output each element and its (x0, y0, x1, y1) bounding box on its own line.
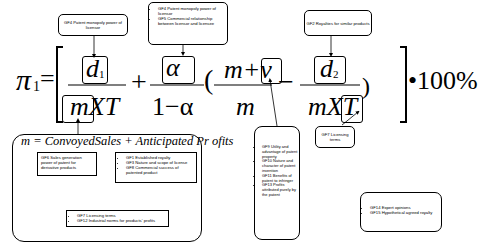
equals-sign: = (40, 64, 55, 94)
callout-gf1-gf3-gf8: GF1 Established royalty GF3 Nature and s… (115, 152, 197, 183)
callout-gf7-right-text: GF7 Licensing terms (316, 132, 354, 142)
one-minus-alpha-denominator: 1−α (152, 92, 193, 122)
pi-symbol: π (16, 63, 31, 97)
times-100-percent: •100% (408, 66, 478, 96)
callout-gf14-gf15: GF14 Expert opinions GF15 Hypothetical a… (360, 192, 442, 232)
callout-gf2-text: GF2 Royalties for similar products (306, 21, 369, 26)
m-plus-v-numerator: m+v (224, 55, 272, 85)
callout-item: GF10 Nature and character of patent inve… (262, 159, 298, 173)
callout-item: GF12 Industrial norms for products' prof… (77, 218, 166, 223)
callout-gf4-text: GF4 Patent monopoly power of licensor (59, 20, 127, 30)
minus-sign: − (278, 66, 294, 98)
callout-item: GF9 Utility and advantage of patent prop… (262, 145, 298, 159)
m-denominator: m (236, 92, 255, 122)
callout-gf4: GF4 Patent monopoly power of licensor (58, 14, 128, 36)
alpha-numerator: α (166, 53, 180, 83)
mxt-denominator-1: mXT (70, 92, 119, 122)
callout-gf7-right: GF7 Licensing terms (315, 126, 355, 148)
callout-gf2: GF2 Royalties for similar products (304, 10, 372, 36)
callout-gf6: GF6 Sales generation power of patent for… (37, 152, 97, 176)
callout-gf4-gf5: GF4 Patent monopoly power of licensor GF… (148, 2, 228, 45)
d2-subscript: 2 (333, 68, 339, 80)
callout-gf9-gf13: GF9 Utility and advantage of patent prop… (254, 126, 300, 240)
callout-item: GF8 Commercial success of patented produ… (126, 165, 194, 175)
open-paren: ( (204, 64, 213, 96)
callout-item: GF4 Patent monopoly power of licensor (158, 6, 225, 16)
callout-gf6-text: GF6 Sales generation power of patent for… (41, 155, 82, 170)
mxt-denominator-2: mXT (308, 92, 357, 122)
callout-item: GF5 Commercial relationship between lice… (158, 16, 225, 26)
close-paren: ) (362, 73, 370, 100)
plus-sign: + (131, 66, 147, 98)
d2-numerator: d (320, 54, 333, 84)
callout-item: GF15 Hypothetical agreed royalty (370, 210, 439, 215)
d1-numerator: d (86, 54, 99, 84)
callout-gf7-gf12: GF7 Licensing terms GF12 Industrial norm… (66, 210, 169, 227)
pi-subscript: 1 (33, 79, 40, 95)
callout-item: GF13 Profits attributed purely by the pa… (262, 183, 298, 197)
m-definition: m = ConvoyedSales + Anticipated Pr ofits (21, 139, 233, 144)
d1-subscript: 1 (99, 68, 105, 80)
